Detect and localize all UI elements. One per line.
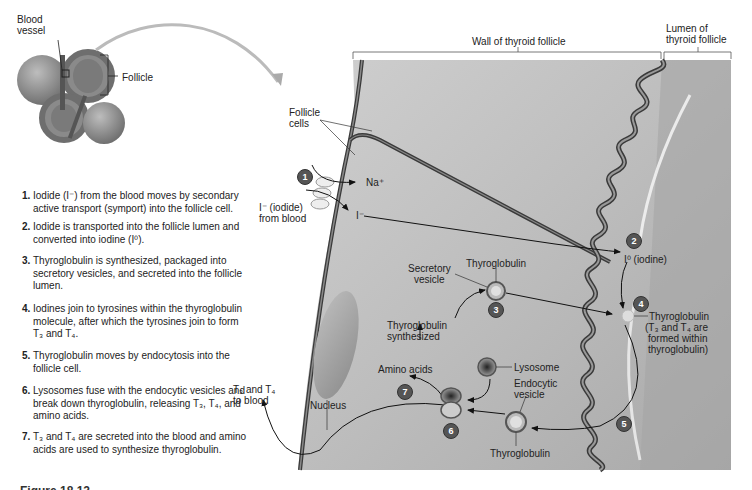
thyroglobulin-bottom-label: Thyroglobulin [490, 448, 550, 459]
badge-step-7: 7 [397, 384, 413, 400]
to-blood-label-2: to blood [233, 395, 269, 406]
tg-synth-label-2: synthesized [387, 331, 440, 342]
badge-step-2: 2 [626, 233, 642, 249]
secretory-vesicle-label-2: vesicle [414, 274, 445, 285]
step-5: 5. Thyroglobulin moves by endocytosis in… [22, 350, 247, 375]
badge-step-4: 4 [633, 296, 649, 312]
thyroglobulin-top-label: Thyroglobulin [466, 258, 526, 269]
i-minus-label: I⁻ [356, 210, 364, 221]
nucleus-label: Nucleus [310, 400, 346, 411]
follicle-thumbnail [17, 40, 125, 144]
step-3: 3. Thyroglobulin is synthesized, package… [22, 255, 247, 293]
badge-step-5: 5 [616, 416, 632, 432]
iodide-label-2: from blood [259, 213, 306, 224]
badge-step-1: 1 [297, 169, 313, 185]
iodine-label: I⁰ (iodine) [624, 254, 667, 265]
wall-header: Wall of thyroid follicle [472, 36, 566, 47]
to-blood-label-1: T₃ and T₄ [233, 384, 275, 395]
thyroglobulin-lumen-label: Thyroglobulin [649, 311, 709, 322]
step-6: 6. Lysosomes fuse with the endocytic ves… [22, 385, 247, 423]
step-4: 4. Iodines join to tyrosines within the … [22, 303, 247, 341]
lysosome-label: Lysosome [514, 362, 559, 373]
amino-acids-label: Amino acids [378, 364, 432, 375]
endocytic-vesicle-label-1: Endocytic [514, 378, 557, 389]
figure-caption: Figure 18.12 [20, 484, 320, 490]
na-plus-label: Na⁺ [366, 177, 384, 188]
step-1: 1. Iodide (I⁻) from the blood moves by s… [22, 190, 247, 215]
blood-vessel-label: Blood vessel [17, 14, 45, 36]
badge-step-3: 3 [488, 302, 504, 318]
t3t4-formed-label-1: (T₃ and T₄ are [645, 322, 708, 333]
t3t4-formed-label-3: thyroglobulin) [648, 344, 708, 355]
tg-synth-label-1: Thyroglobulin [387, 320, 447, 331]
lumen-header-line2: thyroid follicle [666, 34, 727, 45]
iodide-label-1: I⁻ (iodide) [259, 202, 303, 213]
badge-step-6: 6 [443, 423, 459, 439]
follicle-cells-label-2: cells [289, 118, 309, 129]
lumen-header-line1: Lumen of [666, 23, 708, 34]
step-2: 2. Iodide is transported into the follic… [22, 221, 247, 246]
follicle-cells-label-1: Follicle [289, 107, 320, 118]
follicle-label: Follicle [122, 72, 153, 83]
step-7: 7. T₃ and T₄ are secreted into the blood… [22, 431, 247, 456]
secretory-vesicle-label-1: Secretory [408, 263, 451, 274]
endocytic-vesicle-label-2: vesicle [514, 389, 545, 400]
t3t4-formed-label-2: formed within [648, 333, 707, 344]
